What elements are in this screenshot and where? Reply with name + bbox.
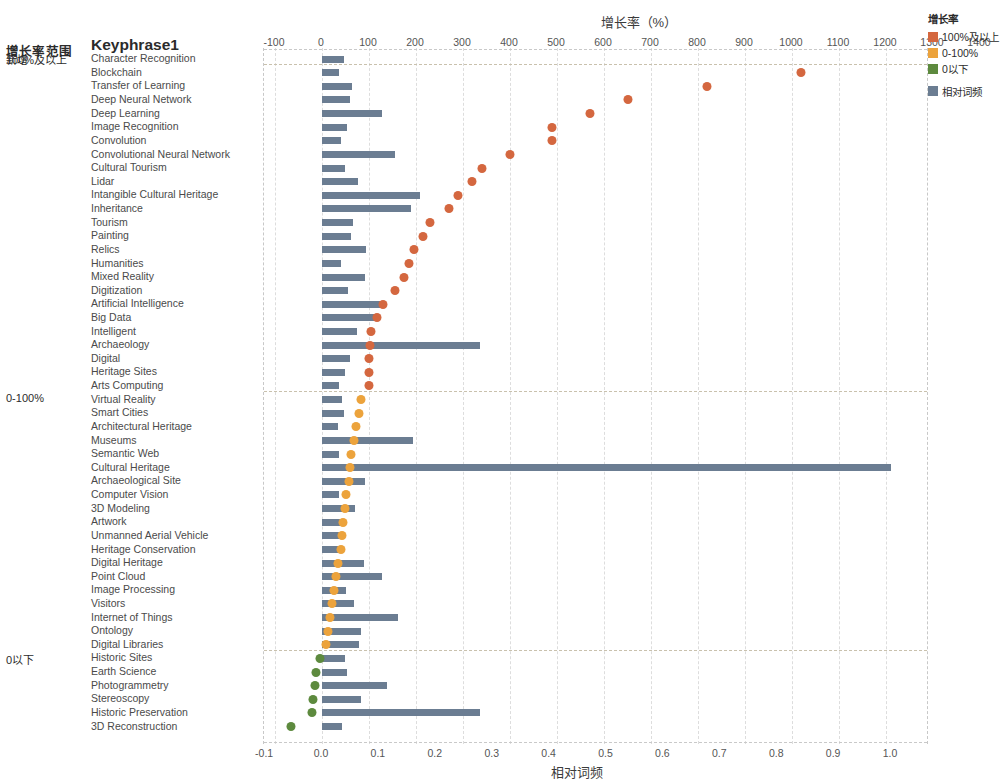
grid-line xyxy=(792,48,793,744)
row-label: Semantic Web xyxy=(91,448,159,459)
growth-rate-dot xyxy=(321,640,330,649)
row-label: Digitization xyxy=(91,285,142,296)
frequency-bar xyxy=(322,382,339,389)
growth-rate-dot xyxy=(365,381,374,390)
row-label: Convolutional Neural Network xyxy=(91,149,230,160)
frequency-bar xyxy=(322,478,365,485)
growth-rate-dot xyxy=(548,123,557,132)
growth-rate-dot xyxy=(347,450,356,459)
legend-item[interactable]: 0以下 xyxy=(928,61,1000,76)
growth-rate-dot xyxy=(426,218,435,227)
group-separator xyxy=(264,391,927,392)
row-label: Inheritance xyxy=(91,203,143,214)
growth-rate-dot xyxy=(342,490,351,499)
frequency-bar xyxy=(322,151,395,158)
growth-rate-dot xyxy=(409,245,418,254)
legend-item-frequency[interactable]: 相对词频 xyxy=(928,84,1000,99)
growth-rate-dot xyxy=(339,518,348,527)
top-tick-800: 800 xyxy=(688,36,706,48)
row-label: Intelligent xyxy=(91,326,136,337)
row-label: Archaeology xyxy=(91,339,149,350)
top-tick-100: 100 xyxy=(359,36,377,48)
grid-line xyxy=(839,48,840,744)
frequency-bar xyxy=(322,396,342,403)
growth-rate-dot xyxy=(468,177,477,186)
row-label: Digital xyxy=(91,353,120,364)
row-label: Mixed Reality xyxy=(91,271,154,282)
row-label: Cultural Heritage xyxy=(91,462,170,473)
growth-rate-dot xyxy=(585,109,594,118)
row-label: Deep Neural Network xyxy=(91,94,191,105)
row-label: Visitors xyxy=(91,598,125,609)
frequency-bar xyxy=(322,669,347,676)
growth-rate-dot xyxy=(379,300,388,309)
bottom-tick--0.1: -0.1 xyxy=(255,747,273,759)
group-label-0以下: 0以下 xyxy=(6,651,34,667)
grid-line xyxy=(745,48,746,744)
top-tick-700: 700 xyxy=(641,36,659,48)
frequency-bar xyxy=(322,423,338,430)
grid-line xyxy=(698,48,699,744)
grid-line xyxy=(604,48,605,744)
row-label: Historic Sites xyxy=(91,652,152,663)
growth-rate-dot xyxy=(312,668,321,677)
legend-title: 增长率 xyxy=(928,11,1000,26)
top-tick-600: 600 xyxy=(594,36,612,48)
growth-rate-dot xyxy=(454,191,463,200)
row-label: Transfer of Learning xyxy=(91,80,185,91)
growth-rate-dot xyxy=(404,259,413,268)
frequency-bar xyxy=(322,314,376,321)
row-label: Lidar xyxy=(91,176,114,187)
grid-line xyxy=(416,48,417,744)
row-label: Big Data xyxy=(91,312,131,323)
group-label-0-100%: 0-100% xyxy=(6,392,44,404)
row-label: Archaeological Site xyxy=(91,475,181,486)
frequency-bar xyxy=(322,451,339,458)
legend-item[interactable]: 100%及以上 xyxy=(928,29,1000,44)
legend-swatch-icon xyxy=(928,64,938,74)
row-label: Point Cloud xyxy=(91,571,145,582)
frequency-bar xyxy=(322,260,341,267)
row-label: Artificial Intelligence xyxy=(91,298,184,309)
growth-rate-dot xyxy=(328,599,337,608)
top-tick-1100: 1100 xyxy=(827,36,850,48)
growth-rate-dot xyxy=(366,341,375,350)
growth-rate-dot xyxy=(326,613,335,622)
growth-rate-dot xyxy=(336,545,345,554)
row-label: Photogrammetry xyxy=(91,680,169,691)
row-label: Heritage Conservation xyxy=(91,544,195,555)
row-label: Image Recognition xyxy=(91,121,179,132)
row-label: Unmanned Aerial Vehicle xyxy=(91,530,208,541)
frequency-bar xyxy=(322,192,420,199)
row-label: Cultural Tourism xyxy=(91,162,167,173)
group-separator xyxy=(264,650,927,651)
top-tick-1000: 1000 xyxy=(779,36,802,48)
growth-rate-dot xyxy=(286,722,295,731)
frequency-bar xyxy=(322,69,339,76)
bottom-tick-0.1: 0.1 xyxy=(371,747,386,759)
row-label: 3D Modeling xyxy=(91,503,150,514)
growth-rate-dot xyxy=(323,627,332,636)
frequency-bar xyxy=(322,219,353,226)
legend-item[interactable]: 0-100% xyxy=(928,47,1000,59)
row-label: Virtual Reality xyxy=(91,394,156,405)
row-label: Intangible Cultural Heritage xyxy=(91,189,218,200)
growth-rate-dot xyxy=(356,395,365,404)
growth-rate-dot xyxy=(365,368,374,377)
growth-rate-dot xyxy=(346,463,355,472)
frequency-bar xyxy=(322,355,350,362)
frequency-bar xyxy=(322,369,345,376)
frequency-bar xyxy=(322,723,342,730)
grid-line xyxy=(463,48,464,744)
growth-rate-dot xyxy=(307,708,316,717)
growth-rate-dot xyxy=(340,504,349,513)
frequency-bar xyxy=(322,165,345,172)
top-tick-900: 900 xyxy=(735,36,753,48)
growth-rate-dot xyxy=(315,654,324,663)
row-label: Heritage Sites xyxy=(91,366,157,377)
group-label-100%及以上: 100%及以上 xyxy=(6,51,67,67)
frequency-bar xyxy=(322,137,341,144)
row-label: Deep Learning xyxy=(91,108,160,119)
top-tick-200: 200 xyxy=(406,36,424,48)
bottom-tick-0.6: 0.6 xyxy=(655,747,670,759)
